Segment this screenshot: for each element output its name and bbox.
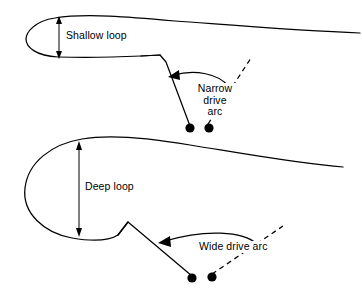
- shallow-marker-dot-right: [204, 123, 213, 132]
- deep-loop-tail-path: [118, 222, 192, 276]
- wide-drive-arc-arrowhead-icon: [158, 236, 171, 247]
- shallow-depth-arrowhead-bottom-icon: [56, 51, 62, 59]
- diagram-root: Shallow loop Narrow drive arc Deep loop …: [0, 0, 362, 299]
- wide-drive-arc-label: Wide drive arc: [197, 241, 270, 253]
- deep-loop-label: Deep loop: [83, 181, 136, 193]
- diagram-canvas: [0, 0, 362, 299]
- narrow-drive-arc-label: Narrow drive arc: [188, 83, 242, 118]
- shallow-marker-dot-left: [185, 123, 194, 132]
- narrow-drive-arc-label-line3: arc: [189, 106, 241, 118]
- deep-marker-dot-left: [187, 273, 196, 282]
- deep-marker-dot-right: [207, 272, 216, 281]
- shallow-loop-label: Shallow loop: [64, 30, 129, 42]
- shallow-loop-tail-path: [141, 55, 190, 126]
- deep-loop-path: [25, 137, 343, 240]
- deep-depth-arrowhead-bottom-icon: [76, 228, 82, 237]
- narrow-drive-arc-label-line1: Narrow: [189, 83, 241, 95]
- deep-depth-arrowhead-top-icon: [76, 141, 82, 150]
